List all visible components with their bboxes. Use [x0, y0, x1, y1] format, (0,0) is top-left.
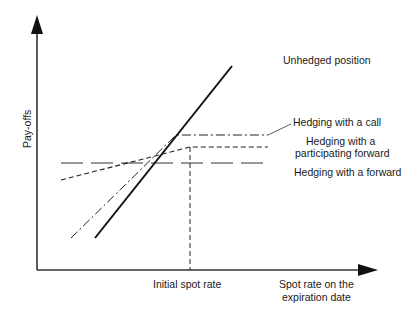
- y-axis-label: Pay-offs: [21, 110, 33, 148]
- series-hedging-call: [71, 135, 268, 238]
- label-unhedged: Unhedged position: [283, 54, 371, 66]
- payoff-diagram: Unhedged position Hedging with a call He…: [0, 0, 420, 316]
- x-marker-label: Initial spot rate: [153, 278, 221, 290]
- label-call: Hedging with a call: [293, 116, 381, 128]
- series-unhedged: [95, 66, 232, 238]
- label-participating-2: participating forward: [295, 147, 390, 159]
- y-axis-arrowhead: [31, 15, 43, 34]
- x-axis-label-1: Spot rate on the: [279, 278, 354, 290]
- label-participating-1: Hedging with a: [306, 135, 376, 147]
- label-forward: Hedging with a forward: [294, 166, 402, 178]
- x-axis-label-2: expiration date: [282, 291, 351, 303]
- x-axis-arrowhead: [358, 264, 378, 276]
- call-label-leader: [268, 124, 291, 135]
